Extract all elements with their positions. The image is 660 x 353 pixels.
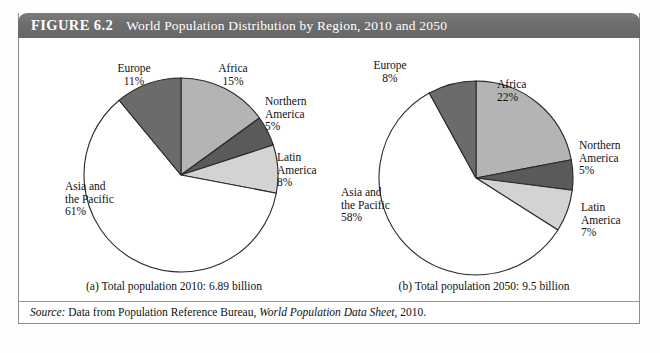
label-europe-pct: 8% <box>357 72 423 85</box>
charts-container: Europe 11% Africa 15% Northern America 5… <box>19 38 639 300</box>
figure-screenshot: FIGURE 6.2 World Population Distribution… <box>0 0 660 353</box>
source-text-2: , 2010. <box>395 306 427 318</box>
label-europe-2050: Europe 8% <box>357 59 423 84</box>
caption-2010: (a) Total population 2010: 6.89 billion <box>19 280 329 292</box>
label-northern-america-line1: Northern <box>579 139 621 152</box>
label-latin-america-2050: Latin America 7% <box>581 201 621 239</box>
label-northern-america-pct: 5% <box>265 120 307 133</box>
label-latin-america-line2: America <box>581 214 621 227</box>
label-europe-name: Europe <box>101 62 167 75</box>
label-africa-name: Africa <box>497 78 526 91</box>
label-asia-line1: Asia and <box>65 180 114 193</box>
label-northern-america-line1: Northern <box>265 95 307 108</box>
label-asia-pct: 61% <box>65 205 114 218</box>
label-africa-pct: 15% <box>205 75 261 88</box>
label-northern-america-2010: Northern America 5% <box>265 95 307 133</box>
label-latin-america-line1: Latin <box>581 201 621 214</box>
label-latin-america-line1: Latin <box>277 151 317 164</box>
figure-header-bar: FIGURE 6.2 World Population Distribution… <box>18 13 640 38</box>
label-asia-line1: Asia and <box>341 186 390 199</box>
source-line: Source: Data from Population Reference B… <box>30 306 426 318</box>
pie-panel-2010: Europe 11% Africa 15% Northern America 5… <box>19 38 329 300</box>
label-latin-america-2010: Latin America 8% <box>277 151 317 189</box>
source-label: Source: <box>30 306 65 318</box>
label-africa-pct: 22% <box>497 91 526 104</box>
label-europe-name: Europe <box>357 59 423 72</box>
label-africa-2050: Africa 22% <box>497 78 526 103</box>
source-publication-title: World Population Data Sheet <box>259 306 394 318</box>
caption-2050: (b) Total population 2050: 9.5 billion <box>329 280 639 292</box>
label-europe-2010: Europe 11% <box>101 62 167 87</box>
label-asia-pct: 58% <box>341 211 390 224</box>
label-asia-line2: the Pacific <box>65 193 114 206</box>
label-europe-pct: 11% <box>101 75 167 88</box>
label-northern-america-2050: Northern America 5% <box>579 139 621 177</box>
source-divider <box>19 301 639 302</box>
label-asia-pacific-2050: Asia and the Pacific 58% <box>341 186 390 224</box>
label-africa-name: Africa <box>205 62 261 75</box>
label-northern-america-pct: 5% <box>579 164 621 177</box>
source-text-1: Data from Population Reference Bureau, <box>65 306 259 318</box>
label-asia-pacific-2010: Asia and the Pacific 61% <box>65 180 114 218</box>
label-northern-america-line2: America <box>579 152 621 165</box>
label-latin-america-line2: America <box>277 164 317 177</box>
label-asia-line2: the Pacific <box>341 199 390 212</box>
label-africa-2010: Africa 15% <box>205 62 261 87</box>
figure-number: FIGURE 6.2 <box>31 17 113 34</box>
figure-title: World Population Distribution by Region,… <box>126 18 447 34</box>
label-latin-america-pct: 7% <box>581 226 621 239</box>
pie-panel-2050: Europe 8% Africa 22% Northern America 5%… <box>329 38 639 300</box>
label-latin-america-pct: 8% <box>277 176 317 189</box>
label-northern-america-line2: America <box>265 108 307 121</box>
